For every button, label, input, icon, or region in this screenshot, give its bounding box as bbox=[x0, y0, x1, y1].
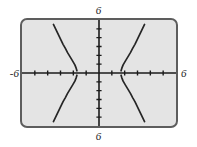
curve-upper-right bbox=[121, 24, 144, 70]
x-max-label: 6 bbox=[181, 68, 197, 79]
curve-lower-left bbox=[53, 75, 76, 121]
y-min-label: 6 bbox=[0, 131, 197, 142]
axes-group bbox=[22, 20, 176, 126]
calculator-screen bbox=[20, 18, 178, 128]
y-max-label: 6 bbox=[0, 5, 197, 16]
graphing-calculator-figure: 6 -6 6 6 bbox=[0, 0, 197, 147]
plot-area bbox=[22, 20, 176, 126]
curve-upper-left bbox=[53, 24, 76, 70]
curve-lower-right bbox=[121, 75, 144, 121]
x-min-label: -6 bbox=[0, 68, 19, 79]
